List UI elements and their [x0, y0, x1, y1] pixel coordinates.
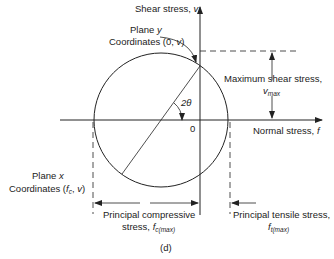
shear-stress-text: Shear stress,	[135, 3, 191, 14]
tensile-symbol: ft(max)	[268, 221, 289, 235]
shear-stress-symbol: v	[194, 3, 199, 14]
max-shear-symbol: vmax	[263, 85, 280, 99]
plane-x-title: Plane x	[32, 170, 64, 181]
plane-y-title: Plane y	[130, 24, 162, 35]
compressive-label-line2: stress, fc(max)	[122, 221, 175, 235]
normal-stress-label: Normal stress, f	[253, 125, 320, 136]
origin-label: 0	[190, 123, 195, 134]
figure-caption: (d)	[160, 242, 172, 253]
max-shear-label: Maximum shear stress,	[224, 73, 322, 84]
shear-stress-label: Shear stress, v	[135, 3, 198, 14]
angle-label: 2θ	[181, 97, 191, 108]
compressive-label-line1: Principal compressive	[103, 209, 195, 220]
tensile-label-line1: Principal tensile stress,	[233, 209, 330, 220]
plane-y-coordinates: Coordinates (0, v)	[109, 36, 185, 47]
plane-x-coordinates: Coordinates (fc, v)	[9, 183, 85, 197]
